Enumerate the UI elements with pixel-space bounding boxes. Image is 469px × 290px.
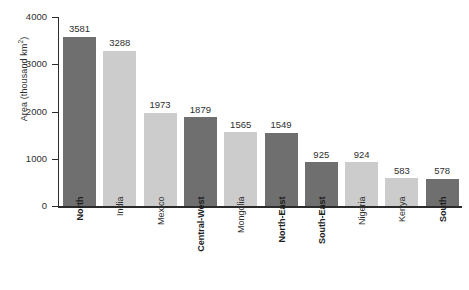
bar-value-label: 1879 xyxy=(175,105,226,115)
category-label-slot: Nigeria xyxy=(342,208,381,288)
bar-slot: 578 xyxy=(423,17,462,206)
bar-slot: 1565 xyxy=(221,17,260,206)
bar[interactable] xyxy=(144,113,177,206)
x-axis-category-label: Mexico xyxy=(156,197,165,290)
bar-chart: Area (thousand km2) 01000200030004000 35… xyxy=(0,0,469,290)
bar-slot: 925 xyxy=(302,17,341,206)
bar-value-label: 3581 xyxy=(54,24,105,34)
x-axis-category-label: Central-West xyxy=(196,197,205,290)
bar[interactable] xyxy=(103,51,136,206)
y-axis-tick-label: 1000 xyxy=(0,154,47,164)
y-axis-title-suffix: ) xyxy=(19,37,29,40)
category-label-slot: North-East xyxy=(262,208,301,288)
category-label-slot: India xyxy=(100,208,139,288)
bar-slot: 1973 xyxy=(141,17,180,206)
bar-slot: 3581 xyxy=(60,17,99,206)
category-label-slot: South-East xyxy=(302,208,341,288)
bar[interactable] xyxy=(265,133,298,206)
x-axis-category-label: Mongolia xyxy=(237,197,246,290)
y-axis-tick-label: 3000 xyxy=(0,59,47,69)
category-label-slot: North xyxy=(60,208,99,288)
x-axis-category-label: North-East xyxy=(277,197,286,290)
x-axis-category-label: India xyxy=(116,197,125,290)
bar-value-label: 1549 xyxy=(256,120,307,130)
bar[interactable] xyxy=(63,37,96,206)
bar-slot: 1549 xyxy=(262,17,301,206)
category-label-slot: Central-West xyxy=(181,208,220,288)
bar-slot: 3288 xyxy=(100,17,139,206)
y-axis-tick-label: 4000 xyxy=(0,12,47,22)
x-axis-category-label: South xyxy=(438,197,447,290)
bar-slot: 1879 xyxy=(181,17,220,206)
category-label-slot: South xyxy=(423,208,462,288)
category-label-slot: Kenya xyxy=(382,208,421,288)
category-label-slot: Mexico xyxy=(141,208,180,288)
x-axis-category-label: South-East xyxy=(317,197,326,290)
bar-slot: 924 xyxy=(342,17,381,206)
y-axis-tick-label: 2000 xyxy=(0,107,47,117)
x-axis-category-label: North xyxy=(76,197,85,290)
y-axis-title-exponent: 2 xyxy=(17,40,24,44)
bar-slot: 583 xyxy=(382,17,421,206)
bar-value-label: 578 xyxy=(417,166,468,176)
x-axis-category-label: Nigeria xyxy=(358,197,367,290)
y-axis-title: Area (thousand km2) xyxy=(19,9,29,149)
x-axis-category-label: Kenya xyxy=(398,197,407,290)
category-label-slot: Mongolia xyxy=(221,208,260,288)
plot-area: 358132881973187915651549925924583578 xyxy=(58,17,462,206)
bar-value-label: 3288 xyxy=(94,38,145,48)
bar[interactable] xyxy=(184,117,217,206)
bar[interactable] xyxy=(224,132,257,206)
x-axis-category-labels: NorthIndiaMexicoCentral-WestMongoliaNort… xyxy=(58,208,462,288)
bar-value-label: 924 xyxy=(336,150,387,160)
y-axis-tick-label: 0 xyxy=(0,201,47,211)
